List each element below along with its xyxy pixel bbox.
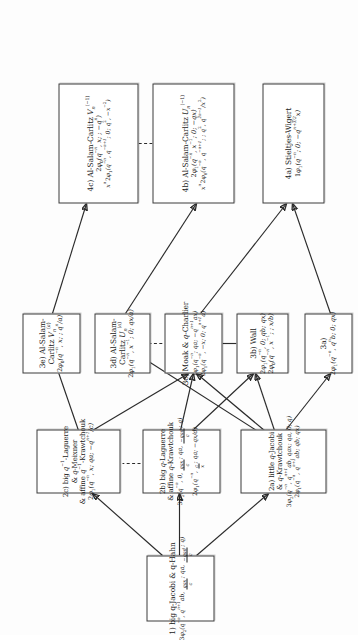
node-formula-2: 2φ1(q−n, qn+1ab; qb; qx) <box>292 425 299 497</box>
node-formula: 2φ0(q−n, x; ; qn/a) <box>56 314 64 371</box>
edge-n2a-n3c <box>196 373 264 430</box>
node-3b-wall[interactable]: 3b) Wall 2φ1(q−n, 0; qb; qx) 2φ0(q−n, x−… <box>236 313 288 373</box>
node-4b-al-salam-carlitz-u-inv[interactable]: 4b) Al-Salam-Carlitz Un(−1) 2φ1(q−n, x−1… <box>152 83 234 203</box>
edge-n1-n2c <box>92 493 162 555</box>
node-formula: 3φ2(q−n, qn+1ab, qax; qa, 0; q) <box>284 415 291 506</box>
node-2a-little-q-jacobi[interactable]: 2a) little q-Jacobi& q-Krawtchouk 3φ2(q−… <box>240 429 326 493</box>
node-formula-2: xn 2φ1(q−n, q−n+1; 0; q2, −x−2) <box>103 99 110 187</box>
node-2b-big-q-laguerre[interactable]: 2b) big q-Laguerre& affine q-Krawtchouk … <box>142 429 220 493</box>
node-title: 4c) Al-Salam-Carlitz Vn(−1) <box>86 95 95 191</box>
edge-n3c-n4a <box>200 203 286 313</box>
node-3c-moak-q-charlier[interactable]: 3c) Moak & q-Charlier 1φ1(q−n; qa; −qn+1… <box>164 313 222 373</box>
node-formula: 1φ1(q−n; 0; −qn+3/2x) <box>294 109 302 176</box>
edge-n2a-n3a <box>285 373 330 430</box>
node-4c-al-salam-carlitz-v-inv[interactable]: 4c) Al-Salam-Carlitz Vn(−1) 2φ0(q−n, x; … <box>58 83 138 203</box>
node-formula-2: 2φ1(q−n, −x; 0; qn+1a) <box>198 310 205 376</box>
node-formula: 3φ2(q−n, 0, qaxc; qa, −qadc; q) <box>175 417 190 505</box>
node-formula-2: xn 2φ0(q−n, q−n+1; ; q2, q2n−1/x2) <box>198 97 205 190</box>
node-formula: 2φ1(q−n, 0; qb; qx) <box>259 313 267 374</box>
edge-n2b-n3b <box>192 373 253 430</box>
edge-n3e-n4c <box>52 203 86 313</box>
node-formula: 2φ1(q−n, x−1; 0; −qx) <box>190 109 198 177</box>
node-3d-al-salam-carlitz-u-a[interactable]: 3d) Al-Salam-Carlitz Un(a) 2φ1(q−n, x−1;… <box>94 313 150 373</box>
node-formula: 1φ1(q−n; qa; −qn+1ax) <box>190 310 197 376</box>
node-1-big-q-jacobi-q-hahn[interactable]: 1) big q-Jacobi & q-Hahn 3φ2(q−n, qn+1ab… <box>146 555 214 621</box>
edge-n3d-n4b <box>125 203 196 313</box>
node-2c-big-q-inv-laguerre[interactable]: 2c) big q−1-Laguerre& q-Meixner& affine … <box>36 429 120 493</box>
node-title: 1) big q-Jacobi & q-Hahn <box>168 542 177 634</box>
node-formula-2: 2φ1(q−n, cx; qa; −qx/d) <box>190 427 205 496</box>
node-formula: 2φ1(q−n, x; qa; −qn+1/c) <box>87 422 95 499</box>
node-title: 3d) Al-Salam-Carlitz Un(a) <box>109 318 127 368</box>
edge-n2a-n3b <box>255 373 274 430</box>
node-formula: 2φ0(q−n, x; ; −qn) <box>95 115 103 172</box>
node-3a[interactable]: 3a) 2φ1(q−n, qnb; 0; qx) <box>304 313 352 373</box>
node-3e-al-salam-carlitz-v-a[interactable]: 3e) Al-Salam-Carlitz Vn(a) 2φ0(q−n, x; ;… <box>22 313 80 373</box>
node-4a-stieltjes-wigert[interactable]: 4a) Stieltjes-Wigert 1φ1(q−n; 0; −qn+3/2… <box>262 83 324 203</box>
node-formula-2: 2φ0(q−n, x−1; ; x/b) <box>267 313 275 374</box>
edge-n3a-n4a <box>292 203 330 313</box>
node-formula: 2φ1(q−n, qnb; 0; qx) <box>329 311 337 375</box>
node-title: 3c) Moak & q-Charlier <box>181 301 190 385</box>
node-title: 3e) Al-Salam-Carlitz Vn(a) <box>38 318 56 368</box>
node-formula: 3φ2(q−n, qn+1ab, qaxc; qa, −qadc; q) <box>177 536 192 640</box>
node-title: 2b) big q-Laguerre& affine q-Krawtchouk <box>158 422 175 501</box>
edge-n1-n2a <box>196 493 268 555</box>
node-formula: 2φ1(q−n, x−1; 0; qx/a) <box>127 309 135 378</box>
node-title: 2a) little q-Jacobi& q-Krawtchouk <box>267 431 284 490</box>
node-title: 2c) big q−1-Laguerre& q-Meixner& affine … <box>61 418 86 503</box>
